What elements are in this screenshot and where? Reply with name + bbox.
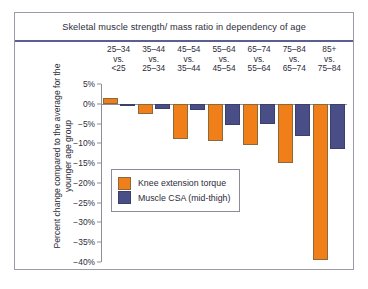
y-tick-label: 5% (83, 79, 95, 89)
bar-group: 65–74vs.55–64 (242, 42, 277, 269)
bar-group: 25–34vs.<25 (101, 42, 136, 269)
y-tick-label: −25% (73, 198, 95, 208)
legend-item: Knee extension torque (118, 177, 230, 190)
bar-muscle-csa (295, 104, 310, 136)
bar-knee-extension-torque (243, 104, 258, 146)
bar-muscle-csa (155, 104, 170, 109)
chart-figure: Skeletal muscle strength/ mass ratio in … (14, 12, 354, 270)
bar-muscle-csa (225, 104, 240, 125)
bar-knee-extension-torque (173, 104, 188, 140)
legend-swatch-blue (118, 191, 131, 204)
chart-title: Skeletal muscle strength/ mass ratio in … (62, 22, 306, 32)
y-tick-label: −30% (73, 217, 95, 227)
x-category-line: 65–74 (283, 64, 306, 74)
bar-knee-extension-torque (278, 104, 293, 163)
x-category-label: 35–44vs.25–34 (142, 45, 165, 74)
legend-label: Knee extension torque (138, 178, 226, 188)
y-tick-label: −20% (73, 178, 95, 188)
legend-item: Muscle CSA (mid-thigh) (118, 191, 230, 204)
bar-muscle-csa (260, 104, 275, 125)
x-category-line: 75–84 (318, 64, 341, 74)
bar-knee-extension-torque (138, 104, 153, 114)
x-category-line: 35–44 (177, 64, 200, 74)
bar-knee-extension-torque (313, 104, 328, 260)
y-tick-label: −15% (73, 158, 95, 168)
y-tick-label: −5% (78, 119, 95, 129)
bar-group: 85+vs.75–84 (312, 42, 347, 269)
bar-group: 55–64vs.45–54 (206, 42, 241, 269)
bar-knee-extension-torque (103, 98, 118, 104)
y-tick-label: −40% (73, 257, 95, 267)
x-category-line: 25–34 (142, 64, 165, 74)
bar-knee-extension-torque (208, 104, 223, 142)
y-tick-label: 0% (83, 99, 95, 109)
bar-group: 35–44vs.25–34 (136, 42, 171, 269)
bar-muscle-csa (330, 104, 345, 149)
chart-legend: Knee extension torqueMuscle CSA (mid-thi… (111, 169, 240, 212)
y-axis: 5%0%−5%−10%−15%−20%−25%−30%−35%−40% (57, 42, 101, 269)
legend-swatch-orange (118, 177, 131, 190)
bar-group: 45–54vs.35–44 (171, 42, 206, 269)
bar-group: 75–84vs.65–74 (277, 42, 312, 269)
x-category-label: 45–54vs.35–44 (177, 45, 200, 74)
x-category-label: 75–84vs.65–74 (283, 45, 306, 74)
x-category-line: 55–64 (248, 64, 271, 74)
plot-area: Percent change compared to the average f… (15, 42, 353, 269)
bar-muscle-csa (190, 104, 205, 111)
x-category-line: <25 (107, 64, 130, 74)
x-category-label: 25–34vs.<25 (107, 45, 130, 74)
x-category-label: 65–74vs.55–64 (248, 45, 271, 74)
x-category-line: 45–54 (212, 64, 235, 74)
x-category-label: 85+vs.75–84 (318, 45, 341, 74)
legend-label: Muscle CSA (mid-thigh) (138, 193, 230, 203)
chart-title-bar: Skeletal muscle strength/ mass ratio in … (15, 13, 353, 42)
y-tick-label: −10% (73, 138, 95, 148)
x-category-label: 55–64vs.45–54 (212, 45, 235, 74)
bar-muscle-csa (120, 104, 135, 106)
y-tick-label: −35% (73, 237, 95, 247)
bars-canvas: 25–34vs.<2535–44vs.25–3445–54vs.35–4455–… (101, 42, 347, 269)
